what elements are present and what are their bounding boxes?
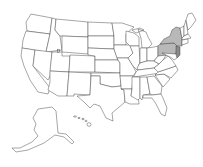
state-arkansas [120,76,133,89]
state-new-mexico [67,72,91,96]
state-montana [55,19,88,37]
state-maine [186,13,196,30]
state-connecticut-rhode-island [182,39,188,45]
state-new-york [160,27,182,46]
state-utah [50,52,70,72]
state-south-dakota [88,36,114,49]
state-hawaii [74,116,92,126]
state-washington [26,14,52,34]
state-colorado [69,55,95,72]
state-north-dakota [88,22,114,36]
state-wisconsin [126,31,139,46]
us-states-map [0,0,203,167]
state-arizona [48,71,69,96]
state-wyoming [62,36,88,54]
state-indiana [140,48,147,63]
state-florida [143,94,167,116]
state-alaska [12,107,74,152]
state-kansas [95,60,120,73]
state-mississippi [131,77,140,100]
